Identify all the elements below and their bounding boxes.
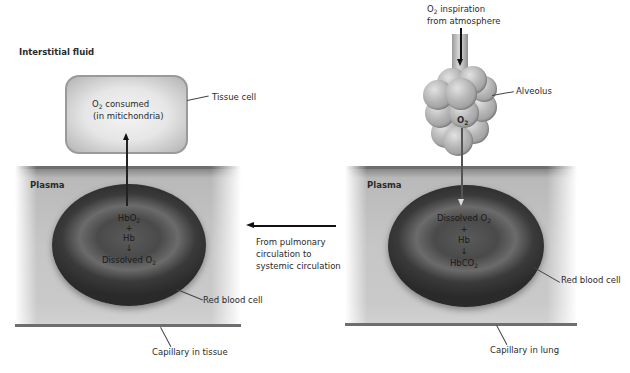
plasma-label-right: Plasma (367, 180, 402, 191)
alveolus-sac (443, 126, 473, 156)
alveolus-o2-label: O2 (457, 115, 468, 126)
capillary-fade-left (345, 166, 367, 326)
o2-inspiration-label-line1: O2 inspiration (427, 4, 485, 15)
capillary-tissue-leader-line (160, 327, 171, 347)
rbc-right-callout: Red blood cell (561, 275, 621, 286)
o2-inspiration-arrow-shaft (460, 28, 462, 60)
rbc-left-plus: + (52, 223, 206, 233)
capillary-fade-right (547, 166, 577, 326)
tissue-cell-o2-consumed-text: O2 consumed (92, 99, 149, 110)
circulation-label-line2: circulation to (256, 249, 312, 260)
tissue-cell-mitochondria-text: (in mitichondria) (93, 111, 164, 122)
alveolus-sac (445, 78, 477, 110)
o2-inspiration-label-line2: from atmosphere (427, 16, 500, 27)
o2-to-tissue-arrowhead-icon (123, 133, 129, 140)
o2-to-blood-arrow-shaft (461, 128, 463, 200)
rbc-right-dissolved-o2: Dissolved O2 (386, 213, 542, 223)
alveolus-callout: Alveolus (516, 86, 552, 97)
circulation-arrowhead-icon (246, 222, 254, 228)
rbc-right-arrow: ↓ (386, 246, 542, 256)
o2-inspiration-arrowhead-icon (457, 59, 463, 66)
rbc-right-hb: Hb (386, 235, 542, 245)
rbc-right-hbco2: HbCO2 (386, 258, 542, 268)
circulation-arrow-shaft (253, 225, 336, 227)
rbc-left-callout: Red blood cell (203, 295, 263, 306)
rbc-left-dissolved-o2: Dissolved O2 (52, 255, 206, 265)
rbc-left-hbo2: HbO2 (52, 213, 206, 223)
interstitial-fluid-label: Interstitial fluid (19, 47, 94, 58)
rbc-left-hb: Hb (52, 233, 206, 243)
o2-to-blood-arrowhead-icon (458, 199, 464, 206)
circulation-label-line1: From pulmonary (256, 237, 326, 248)
tissue-cell-leader-line (187, 95, 209, 101)
capillary-lung-callout: Capillary in lung (490, 345, 559, 356)
o2-to-tissue-arrow-shaft (126, 140, 128, 206)
rbc-left-arrow: ↓ (52, 243, 206, 253)
capillary-lung-leader-line (496, 325, 507, 345)
circulation-label-line3: systemic circulation (256, 261, 341, 272)
plasma-label-left: Plasma (30, 180, 65, 191)
capillary-tissue-callout: Capillary in tissue (152, 347, 228, 358)
rbc-right-plus: + (386, 224, 542, 234)
tissue-cell-callout: Tissue cell (212, 92, 256, 103)
